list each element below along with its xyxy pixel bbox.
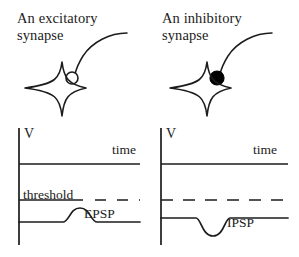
threshold-label-left: threshold: [23, 187, 73, 203]
panel-title-excitatory: An excitatory synapse: [17, 10, 98, 43]
voltage-axis-label-left: V: [24, 126, 34, 142]
ipsp-response-label: IPSP: [227, 215, 254, 231]
time-axis-label-right: time: [253, 142, 277, 158]
epsp-response-label: EPSP: [84, 206, 115, 222]
time-axis-label-left: time: [112, 142, 136, 158]
voltage-axis-label-right: V: [166, 126, 176, 142]
panel-title-inhibitory: An inhibitory synapse: [162, 10, 242, 43]
